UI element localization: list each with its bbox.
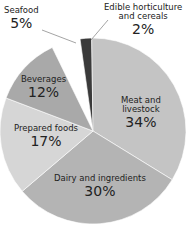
leader-line [42, 30, 76, 43]
label-beverages: Beverages 12% [21, 75, 66, 100]
label-seafood: Seafood 5% [4, 6, 39, 31]
label-dairy-ingredients: Dairy and ingredients 30% [54, 174, 146, 199]
label-meat-livestock: Meat and livestock 34% [121, 96, 161, 130]
label-prepared-foods: Prepared foods 17% [14, 124, 78, 149]
label-edible-horticulture: Edible horticulture and cereals 2% [104, 3, 182, 37]
